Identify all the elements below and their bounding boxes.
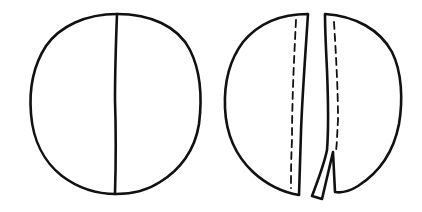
diagram-canvas [0,0,422,212]
right-piece-fold-line [334,22,338,150]
split-circle-panel [225,14,401,199]
whole-circle-divider [115,14,117,194]
diagram-svg [0,0,422,212]
left-piece-outline [225,14,308,195]
right-piece-outline [312,14,401,199]
whole-circle-panel [31,14,201,194]
left-piece-fold-line [291,20,296,188]
